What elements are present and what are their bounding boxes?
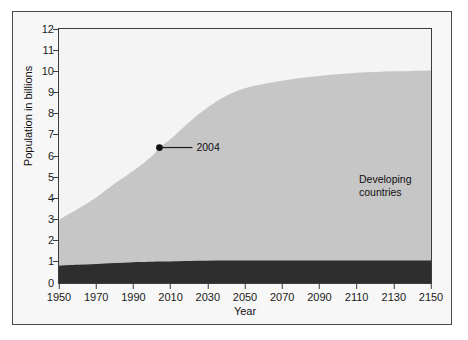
x-axis-tick: 1950	[47, 284, 71, 303]
chart-figure: 1211109876543210 Population in billions …	[0, 0, 468, 340]
area-developed-countries	[59, 261, 431, 283]
x-axis-tick-label: 2010	[158, 291, 182, 303]
x-axis-tick: 2130	[382, 284, 406, 303]
plot-area: Developing countries Developed countries…	[58, 28, 432, 284]
x-axis-tick: 2050	[233, 284, 257, 303]
x-axis-tick: 1970	[84, 284, 108, 303]
x-axis-tick-label: 1990	[121, 291, 145, 303]
x-axis-tick: 2090	[307, 284, 331, 303]
x-axis-tick-mark	[170, 284, 171, 289]
x-axis-tick-mark	[393, 284, 394, 289]
x-axis-tick-mark	[96, 284, 97, 289]
x-axis-tick-mark	[58, 284, 59, 289]
x-axis-tick-label: 2070	[270, 291, 294, 303]
x-axis-tick-mark	[282, 284, 283, 289]
x-axis-tick-mark	[207, 284, 208, 289]
x-axis-tick-label: 2030	[196, 291, 220, 303]
area-chart-svg	[59, 29, 431, 283]
x-axis-tick-label: 1970	[84, 291, 108, 303]
x-axis-tick-label: 1950	[47, 291, 71, 303]
x-axis: 1950197019902010203020502070209021102130…	[58, 284, 432, 306]
x-axis-tick-label: 2150	[419, 291, 443, 303]
x-axis-tick-label: 2130	[382, 291, 406, 303]
x-axis-tick: 2070	[270, 284, 294, 303]
annotation-label-2004: 2004	[196, 141, 219, 153]
x-axis-tick-label: 2090	[307, 291, 331, 303]
annotation-marker-2004	[156, 144, 163, 151]
x-axis-tick: 2150	[419, 284, 443, 303]
x-axis-tick-label: 2110	[345, 291, 369, 303]
x-axis-tick-mark	[356, 284, 357, 289]
x-axis-title: Year	[58, 305, 432, 317]
x-axis-tick-mark	[319, 284, 320, 289]
x-axis-tick-mark	[430, 284, 431, 289]
y-axis-title: Population in billions	[22, 26, 34, 206]
series-label-developing-countries: Developing countries	[359, 173, 412, 199]
x-axis-tick: 2110	[345, 284, 369, 303]
x-axis-tick-mark	[133, 284, 134, 289]
x-axis-tick-label: 2050	[233, 291, 257, 303]
x-axis-tick: 1990	[121, 284, 145, 303]
x-axis-tick: 2030	[196, 284, 220, 303]
x-axis-tick: 2010	[158, 284, 182, 303]
x-axis-tick-mark	[244, 284, 245, 289]
